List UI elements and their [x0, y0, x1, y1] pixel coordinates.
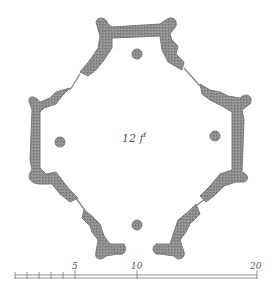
floor-plan — [0, 0, 279, 294]
column-bottom — [132, 220, 142, 230]
scale-label-5: 5 — [72, 261, 78, 271]
room-dimension-label: 12 ft — [122, 131, 146, 145]
column-left — [55, 137, 65, 147]
column-top — [132, 49, 142, 59]
scale-label-20: 20 — [250, 261, 261, 271]
scale-bar — [15, 270, 257, 279]
column-right — [210, 131, 220, 141]
scale-label-10: 10 — [131, 261, 142, 271]
